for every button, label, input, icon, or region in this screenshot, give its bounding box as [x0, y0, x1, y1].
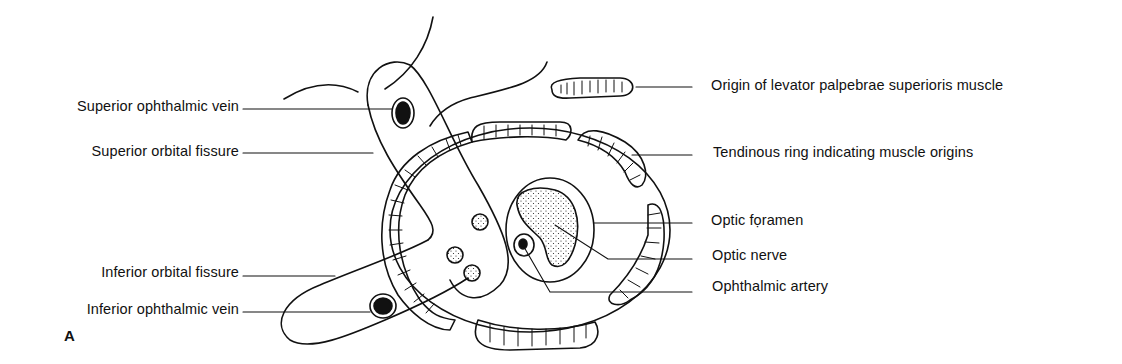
superior-orbital-fissure-outline — [367, 62, 508, 298]
bone-curve-left — [284, 85, 358, 99]
label-optic-nerve: Optic nerve — [712, 247, 787, 263]
nerve-dot-1 — [472, 214, 488, 230]
nerve-dot-2 — [447, 247, 463, 263]
hatched-band-right — [609, 204, 664, 305]
hatched-band-bottom — [475, 320, 597, 350]
label-superior-ophthalmic-vein: Superior ophthalmic vein — [77, 98, 239, 114]
label-tendinous-ring: Tendinous ring indicating muscle origins — [713, 144, 973, 160]
inferior-ophthalmic-vein-lumen — [374, 298, 392, 314]
bone-curve-right — [430, 62, 547, 126]
label-levator-origin: Origin of levator palpebrae superioris m… — [711, 77, 1003, 93]
label-optic-foramen: Optic fọramen — [711, 212, 803, 228]
label-inferior-ophthalmic-vein: Inferior ophthalmic vein — [87, 301, 239, 317]
optic-nerve-shape — [517, 188, 578, 266]
ophthalmic-artery-lumen — [519, 239, 527, 249]
superior-ophthalmic-vein-lumen — [396, 102, 410, 124]
orbital-apex-diagram: Superior ophthalmic vein Superior orbita… — [0, 0, 1122, 364]
hatched-band-upper-right — [578, 131, 646, 187]
label-inferior-orbital-fissure: Inferior orbital fissure — [101, 264, 239, 280]
label-ophthalmic-artery: Ophthalmic artery — [712, 278, 828, 294]
nerve-dot-3 — [464, 265, 480, 281]
label-superior-orbital-fissure: Superior orbital fissure — [92, 143, 239, 159]
levator-origin-shape — [551, 78, 633, 98]
bone-curve-vertical — [385, 17, 433, 89]
panel-letter: A — [64, 327, 75, 344]
